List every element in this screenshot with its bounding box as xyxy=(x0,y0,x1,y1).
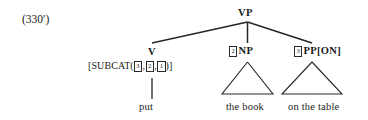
subcat-open-bracket: [SUBCAT( xyxy=(88,61,134,71)
subcat-close-bracket: )] xyxy=(166,61,173,71)
triangle-pp xyxy=(282,62,342,94)
edge-vp-pp xyxy=(248,22,313,43)
subcat-feature-bracket: [SUBCAT( 3 , 2 , 1 )] xyxy=(88,61,172,72)
triangle-np xyxy=(222,62,273,94)
subcat-tag-2: 2 xyxy=(146,61,154,72)
index-tag-pp: 3 xyxy=(294,46,302,57)
index-tag-np: 2 xyxy=(229,46,237,57)
terminal-put: put xyxy=(139,102,153,113)
terminal-on-the-table: on the table xyxy=(288,102,339,113)
subcat-tag-3: 1 xyxy=(157,61,165,72)
node-label-pp: PP[ON] xyxy=(304,46,341,57)
node-label-vp: VP xyxy=(238,8,253,19)
node-pp: 3 PP[ON] xyxy=(294,46,341,57)
syntax-tree-figure: (330′) VP V [SUBCAT( 3 , 2 , 1 )] 2 NP 3… xyxy=(0,0,368,120)
node-label-v: V xyxy=(148,47,156,58)
edge-vp-v xyxy=(152,22,248,43)
terminal-the-book: the book xyxy=(226,102,264,113)
node-label-np: NP xyxy=(239,46,254,57)
subcat-tag-1: 3 xyxy=(134,61,142,72)
node-np: 2 NP xyxy=(229,46,253,57)
